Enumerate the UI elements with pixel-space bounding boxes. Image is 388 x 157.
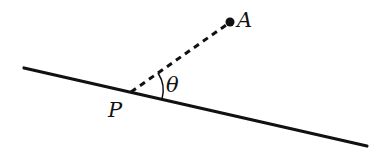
diagram-canvas: A P θ <box>0 0 388 157</box>
line-through-p <box>24 68 367 146</box>
point-a-dot <box>226 18 235 27</box>
dashed-segment-pa <box>131 23 229 92</box>
label-point-a: A <box>235 8 252 32</box>
angle-arc <box>158 73 163 99</box>
label-angle-theta: θ <box>166 73 179 97</box>
label-point-p: P <box>107 98 123 122</box>
